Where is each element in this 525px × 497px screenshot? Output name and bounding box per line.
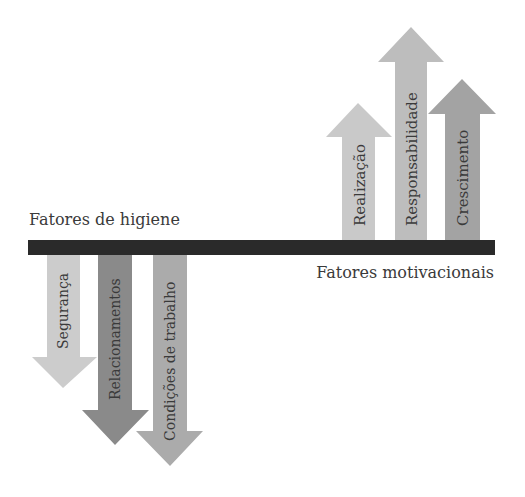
baseline-bar — [28, 240, 495, 255]
arrow-label-crescimento: Crescimento — [454, 130, 472, 226]
herzberg-two-factor-diagram: Realização Responsabilidade Crescimento … — [0, 0, 525, 497]
caption-clipped — [0, 489, 525, 497]
arrow-label-relacionamentos: Relacionamentos — [107, 278, 123, 400]
arrow-label-realizacao: Realização — [351, 144, 369, 226]
arrow-label-seguranca: Segurança — [55, 273, 71, 349]
arrow-crescimento: Crescimento — [428, 79, 496, 240]
arrow-condicoes-de-trabalho: Condições de trabalho — [136, 254, 203, 466]
arrow-seguranca: Segurança — [32, 254, 97, 388]
hygiene-factors-label: Fatores de higiene — [29, 210, 180, 229]
arrow-label-responsabilidade: Responsabilidade — [403, 92, 421, 226]
arrow-relacionamentos: Relacionamentos — [82, 254, 149, 445]
motivational-factors-label: Fatores motivacionais — [316, 263, 494, 282]
arrow-realizacao: Realização — [326, 103, 392, 240]
arrow-label-condicoes-de-trabalho: Condições de trabalho — [162, 282, 178, 441]
